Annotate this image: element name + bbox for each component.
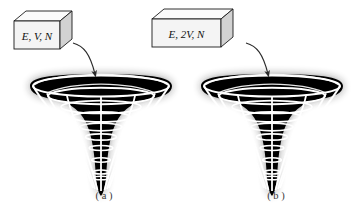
- system-box-a: E, V, N: [14, 11, 72, 49]
- system-box-b-label: E, 2V, N: [168, 28, 206, 40]
- system-box-a-label: E, V, N: [21, 30, 53, 42]
- figure-container: E, V, N ( a ) E, 2V, N (: [0, 0, 360, 214]
- panel-b-caption: ( b ): [267, 190, 285, 202]
- system-box-b: E, 2V, N: [152, 9, 233, 47]
- panel-a-caption: ( a ): [96, 190, 113, 202]
- figure-canvas: E, V, N ( a ) E, 2V, N (: [0, 0, 360, 214]
